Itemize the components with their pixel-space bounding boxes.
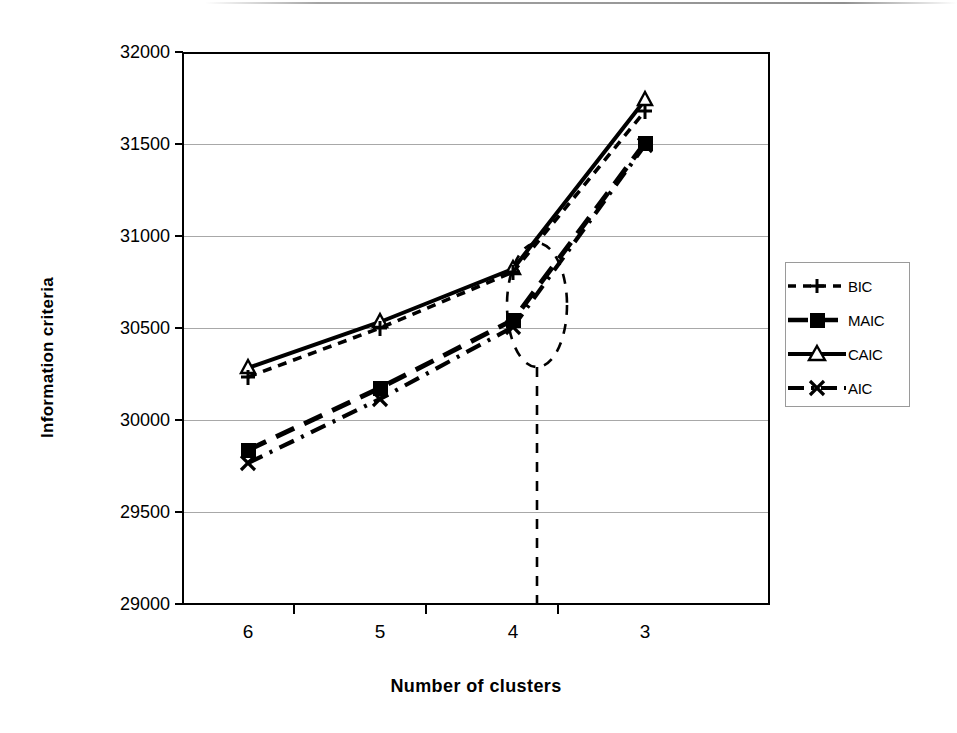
legend-item-caic[interactable]: CAIC [786,339,909,369]
y-tick-label-31000: 31000 [88,227,170,245]
x-tick-label-5: 5 [340,622,420,641]
chart-legend: BIC MAIC CAIC [785,262,910,407]
legend-item-maic[interactable]: MAIC [786,305,909,335]
y-tick-label-30500: 30500 [88,319,170,337]
y-tick-label-29000: 29000 [88,595,170,613]
legend-swatch-maic-dashed-square-icon [786,308,848,332]
gridline-31500 [184,144,768,145]
legend-item-bic[interactable]: BIC [786,271,909,301]
gridline-29500 [184,512,768,513]
gridline-30500 [184,328,768,329]
legend-swatch-caic-solid-triangle-icon [786,342,848,366]
x-axis-title: Number of clusters [326,676,626,697]
y-tick-label-32000: 32000 [88,43,170,61]
legend-item-aic[interactable]: AIC [786,373,909,403]
legend-swatch-bic-dotted-plus-icon [786,274,848,298]
gridline-31000 [184,236,768,237]
x-tick-mark-1 [293,605,295,614]
legend-label-caic: CAIC [848,347,883,362]
x-tick-label-4: 4 [473,622,553,641]
y-axis-title: Information criteria [38,277,58,438]
x-tick-mark-2 [425,605,427,614]
y-tick-label-30000: 30000 [88,411,170,429]
plot-area [182,52,770,605]
information-criteria-line-chart: 32000 31500 31000 30500 30000 29500 2900… [0,0,957,733]
y-tick-label-31500: 31500 [88,135,170,153]
legend-label-bic: BIC [848,279,872,294]
legend-label-aic: AIC [848,381,872,396]
x-tick-label-6: 6 [208,622,288,641]
y-tick-label-29500: 29500 [88,503,170,521]
legend-swatch-aic-dashdot-cross-icon [786,376,848,400]
legend-label-maic: MAIC [848,313,884,328]
x-tick-mark-3 [557,605,559,614]
x-tick-label-3: 3 [605,622,685,641]
gridline-30000 [184,420,768,421]
